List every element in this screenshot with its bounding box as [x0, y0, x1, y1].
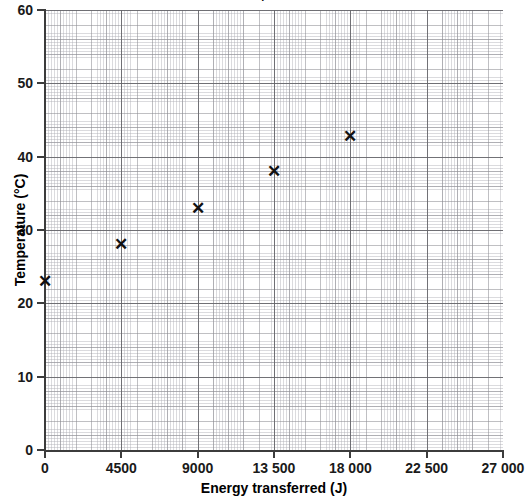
- x-tick-mark: [273, 450, 275, 458]
- x-tick-mark: [349, 450, 351, 458]
- x-tick-mark: [426, 450, 428, 458]
- y-tick-mark: [37, 302, 45, 304]
- x-tick-mark: [120, 450, 122, 458]
- data-point-marker: ✕: [38, 274, 53, 289]
- y-tick-mark: [37, 9, 45, 11]
- x-axis-title: Energy transferred (J): [45, 480, 503, 496]
- y-tick-label: 50: [0, 76, 33, 90]
- y-tick-mark: [37, 376, 45, 378]
- chart-title-text: ·: [261, 0, 265, 6]
- y-axis-title: Temperature (°C): [12, 140, 28, 320]
- y-tick-mark: [37, 156, 45, 158]
- y-tick-mark: [37, 229, 45, 231]
- x-tick-label: 27 000: [448, 461, 526, 475]
- scatter-chart: · 0102030405060 04500900013 50018 00022 …: [0, 0, 526, 498]
- y-tick-label: 0: [0, 443, 33, 457]
- data-point-marker: ✕: [343, 129, 358, 144]
- x-tick-mark: [197, 450, 199, 458]
- y-tick-mark: [37, 82, 45, 84]
- y-tick-label: 60: [0, 3, 33, 17]
- chart-title-remnant: ·: [0, 0, 526, 8]
- y-tick-label: 10: [0, 370, 33, 384]
- plot-grid-area: [45, 10, 503, 450]
- x-tick-mark: [44, 450, 46, 458]
- data-point-marker: ✕: [114, 237, 129, 252]
- data-point-marker: ✕: [190, 201, 205, 216]
- data-point-marker: ✕: [267, 164, 282, 179]
- x-tick-mark: [502, 450, 504, 458]
